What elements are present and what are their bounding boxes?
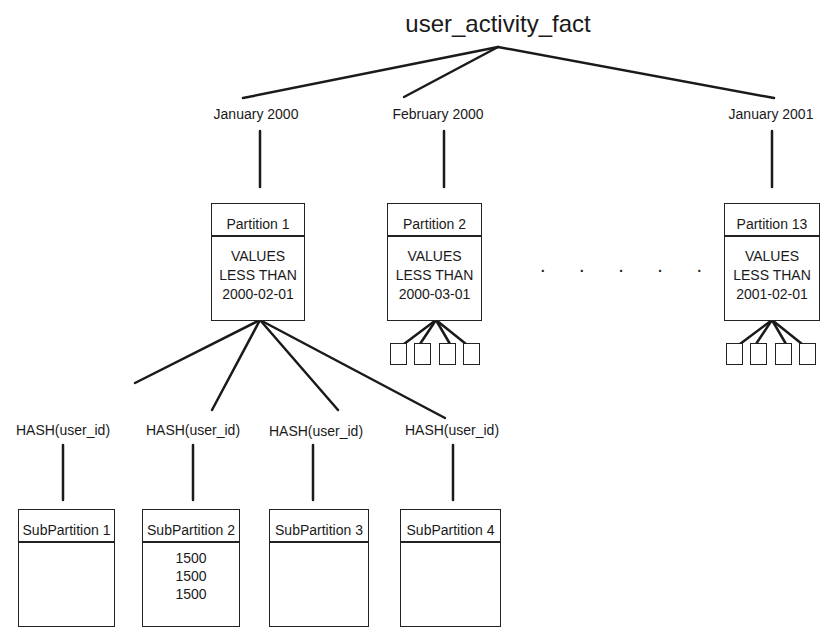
subpartition-4-box: SubPartition 4 bbox=[400, 509, 501, 627]
subpartition-3-name: SubPartition 3 bbox=[270, 510, 368, 543]
bound-line: 2001-02-01 bbox=[725, 285, 819, 304]
subpartition-3-box: SubPartition 3 bbox=[269, 509, 369, 627]
mini-subpartition bbox=[390, 343, 407, 365]
row-value: 1500 bbox=[143, 549, 239, 567]
hash-label-3: HASH(user_id) bbox=[269, 423, 363, 439]
range-label-jan-2000: January 2000 bbox=[214, 106, 299, 122]
bound-line: 2000-03-01 bbox=[388, 285, 481, 304]
partition-2-name: Partition 2 bbox=[388, 204, 481, 237]
partition-2-bound: VALUES LESS THAN 2000-03-01 bbox=[388, 237, 481, 304]
mini-subpartition bbox=[414, 343, 431, 365]
range-label-feb-2000: February 2000 bbox=[392, 106, 483, 122]
mini-subpartition bbox=[726, 343, 743, 365]
bound-line: LESS THAN bbox=[388, 266, 481, 285]
partition-1-name: Partition 1 bbox=[212, 204, 304, 237]
bound-line: LESS THAN bbox=[725, 266, 819, 285]
bound-line: 2000-02-01 bbox=[212, 285, 304, 304]
partition-2-box: Partition 2 VALUES LESS THAN 2000-03-01 bbox=[387, 203, 482, 321]
hash-label-2: HASH(user_id) bbox=[146, 422, 240, 438]
subpartition-3-rows bbox=[270, 543, 368, 549]
mini-subpartition bbox=[799, 343, 816, 365]
range-label-jan-2001: January 2001 bbox=[729, 106, 814, 122]
partition-1-bound: VALUES LESS THAN 2000-02-01 bbox=[212, 237, 304, 304]
mini-subpartition bbox=[463, 343, 480, 365]
subpartition-2-name: SubPartition 2 bbox=[143, 510, 239, 543]
subpartition-1-name: SubPartition 1 bbox=[19, 510, 114, 543]
hash-label-1: HASH(user_id) bbox=[16, 422, 110, 438]
partition-13-box: Partition 13 VALUES LESS THAN 2001-02-01 bbox=[724, 203, 820, 321]
partition-13-name: Partition 13 bbox=[725, 204, 819, 237]
mini-subpartition bbox=[775, 343, 792, 365]
ellipsis: . . . . . bbox=[540, 254, 716, 277]
subpartition-4-name: SubPartition 4 bbox=[401, 510, 500, 543]
partition-13-bound: VALUES LESS THAN 2001-02-01 bbox=[725, 237, 819, 304]
subpartition-1-rows bbox=[19, 543, 114, 549]
bound-line: VALUES bbox=[388, 247, 481, 266]
bound-line: VALUES bbox=[212, 247, 304, 266]
partition-1-box: Partition 1 VALUES LESS THAN 2000-02-01 bbox=[211, 203, 305, 321]
subpartition-1-box: SubPartition 1 bbox=[18, 509, 115, 627]
subpartition-2-rows: 1500 1500 1500 bbox=[143, 543, 239, 603]
bound-line: VALUES bbox=[725, 247, 819, 266]
row-value: 1500 bbox=[143, 585, 239, 603]
bound-line: LESS THAN bbox=[212, 266, 304, 285]
table-name: user_activity_fact bbox=[405, 10, 590, 38]
hash-label-4: HASH(user_id) bbox=[405, 422, 499, 438]
subpartition-4-rows bbox=[401, 543, 500, 549]
row-value: 1500 bbox=[143, 567, 239, 585]
mini-subpartition bbox=[439, 343, 456, 365]
subpartition-2-box: SubPartition 2 1500 1500 1500 bbox=[142, 509, 240, 627]
mini-subpartition bbox=[750, 343, 767, 365]
